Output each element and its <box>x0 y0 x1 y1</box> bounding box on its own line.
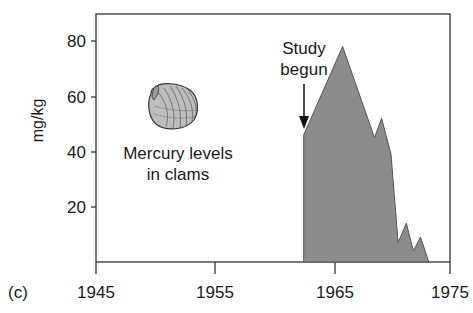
y-tick-label: 60 <box>46 89 86 106</box>
x-tick-label: 1945 <box>66 284 126 301</box>
study-begun-arrow-icon <box>299 84 309 129</box>
x-tick-label: 1975 <box>420 284 473 301</box>
study-begun-line1: Study <box>264 38 344 59</box>
study-begun-annotation: Study begun <box>264 38 344 80</box>
study-begun-line2: begun <box>264 59 344 80</box>
clam-shell-icon <box>149 84 198 129</box>
x-tick-label: 1955 <box>185 284 245 301</box>
panel-label: (c) <box>8 284 28 301</box>
series-caption-line2: in clams <box>108 164 248 185</box>
y-tick-label: 20 <box>46 199 86 216</box>
series-caption: Mercury levels in clams <box>108 143 248 185</box>
x-tick-label: 1965 <box>305 284 365 301</box>
x-ticks <box>96 262 450 274</box>
series-caption-line1: Mercury levels <box>108 143 248 164</box>
y-tick-label: 40 <box>46 144 86 161</box>
y-tick-label: 80 <box>46 33 86 50</box>
y-ticks <box>91 41 96 207</box>
y-axis-label: mg/kg <box>29 99 46 143</box>
